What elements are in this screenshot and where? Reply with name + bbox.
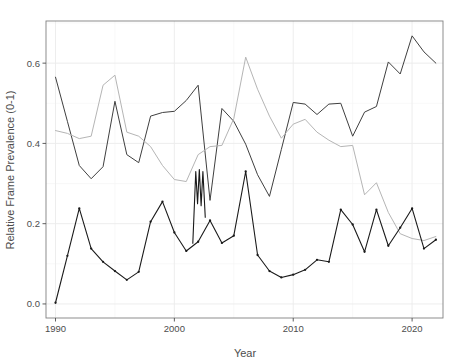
x-axis-title: Year (234, 347, 257, 359)
x-tick-label: 2000 (164, 323, 185, 334)
x-tick-label: 2010 (283, 323, 304, 334)
y-tick-label: 0.0 (27, 298, 40, 309)
y-tick-label: 0.2 (27, 218, 40, 229)
x-tick-label: 2020 (402, 323, 423, 334)
y-axis-title: Relative Frame Prevalence (0-1) (4, 91, 16, 250)
line-chart: 0.00.20.40.61990200020102020 Year Relati… (0, 0, 465, 364)
chart-figure: 0.00.20.40.61990200020102020 Year Relati… (0, 0, 465, 364)
y-tick-label: 0.4 (27, 138, 40, 149)
y-tick-label: 0.6 (27, 58, 40, 69)
x-tick-label: 1990 (45, 323, 66, 334)
